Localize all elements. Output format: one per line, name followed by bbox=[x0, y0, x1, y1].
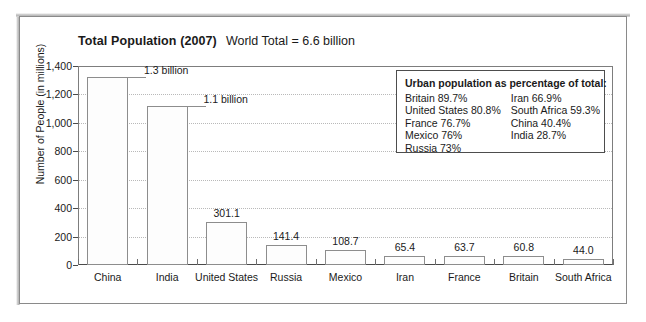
category-label: India bbox=[156, 271, 179, 283]
y-axis-tick bbox=[73, 180, 78, 181]
y-axis-tick bbox=[73, 208, 78, 209]
x-axis-tick bbox=[316, 259, 317, 265]
bar-label-leader-line bbox=[128, 77, 146, 78]
y-axis-tick-label: 0 bbox=[26, 259, 72, 271]
urban-entry: South Africa 59.3% bbox=[511, 104, 600, 116]
category-label: Mexico bbox=[329, 271, 362, 283]
y-axis-tick-label: 1,400 bbox=[26, 60, 72, 72]
x-axis-tick bbox=[613, 259, 614, 265]
bar bbox=[444, 256, 485, 265]
y-axis-tick-label: 400 bbox=[26, 202, 72, 214]
urban-right-column: Iran 66.9%South Africa 59.3%China 40.4%I… bbox=[511, 92, 600, 154]
urban-entry: France 76.7% bbox=[405, 117, 501, 129]
bar bbox=[147, 106, 188, 265]
category-label: France bbox=[448, 271, 481, 283]
figure-container: Total Population (2007)World Total = 6.6… bbox=[0, 0, 646, 322]
x-axis-tick bbox=[78, 259, 79, 265]
y-axis-tick bbox=[73, 237, 78, 238]
x-axis-tick bbox=[375, 259, 376, 265]
bar bbox=[563, 259, 604, 265]
urban-entry: China 40.4% bbox=[511, 117, 600, 129]
bar bbox=[206, 222, 247, 265]
chart-title: Total Population (2007) bbox=[78, 34, 217, 48]
urban-entry: Britain 89.7% bbox=[405, 92, 501, 104]
urban-entry: United States 80.8% bbox=[405, 104, 501, 116]
y-axis-tick-label: 800 bbox=[26, 145, 72, 157]
category-label: Iran bbox=[396, 271, 414, 283]
chart-title-row: Total Population (2007)World Total = 6.6… bbox=[78, 31, 355, 49]
urban-callout-title: Urban population as percentage of total: bbox=[405, 77, 596, 89]
x-axis-tick bbox=[435, 259, 436, 265]
bar-value-label: 1.1 billion bbox=[203, 93, 247, 105]
urban-entry: Iran 66.9% bbox=[511, 92, 600, 104]
urban-entry: India 28.7% bbox=[511, 129, 600, 141]
y-axis-tick-label: 1,000 bbox=[26, 117, 72, 129]
bar bbox=[266, 245, 307, 265]
bar bbox=[503, 256, 544, 265]
x-axis-tick bbox=[256, 259, 257, 265]
urban-entry: Mexico 76% bbox=[405, 129, 501, 141]
bar bbox=[325, 250, 366, 265]
x-axis-tick bbox=[494, 259, 495, 265]
urban-left-column: Britain 89.7%United States 80.8%France 7… bbox=[405, 92, 501, 154]
bar bbox=[87, 77, 128, 265]
bar-value-label: 44.0 bbox=[573, 244, 593, 256]
bar bbox=[384, 256, 425, 265]
bar-label-leader-line bbox=[188, 106, 206, 107]
category-label: Russia bbox=[270, 271, 302, 283]
category-label: United States bbox=[195, 271, 258, 283]
x-axis-tick bbox=[137, 259, 138, 265]
y-axis-tick bbox=[73, 151, 78, 152]
y-axis-tick bbox=[73, 66, 78, 67]
y-axis-tick-label: 200 bbox=[26, 231, 72, 243]
bar-value-label: 108.7 bbox=[332, 235, 358, 247]
urban-callout-columns: Britain 89.7%United States 80.8%France 7… bbox=[405, 92, 596, 154]
y-axis-tick bbox=[73, 123, 78, 124]
x-axis-tick bbox=[554, 259, 555, 265]
category-label: China bbox=[94, 271, 121, 283]
category-label: Britain bbox=[509, 271, 539, 283]
y-axis-tick-label: 1,200 bbox=[26, 88, 72, 100]
category-label: South Africa bbox=[555, 271, 612, 283]
chart-subtitle: World Total = 6.6 billion bbox=[226, 34, 355, 48]
bar-value-label: 63.7 bbox=[454, 241, 474, 253]
bar-value-label: 65.4 bbox=[395, 241, 415, 253]
bar-value-label: 141.4 bbox=[273, 230, 299, 242]
bar-value-label: 301.1 bbox=[213, 207, 239, 219]
bar-value-label: 60.8 bbox=[514, 241, 534, 253]
x-axis-tick bbox=[197, 259, 198, 265]
urban-population-callout: Urban population as percentage of total:… bbox=[396, 70, 605, 153]
y-axis-tick bbox=[73, 265, 78, 266]
y-axis-tick bbox=[73, 94, 78, 95]
y-axis-title: Number of People (in millions) bbox=[34, 4, 46, 224]
bar-value-label: 1.3 billion bbox=[144, 64, 188, 76]
y-axis-tick-label: 600 bbox=[26, 174, 72, 186]
urban-entry: Russia 73% bbox=[405, 142, 501, 154]
